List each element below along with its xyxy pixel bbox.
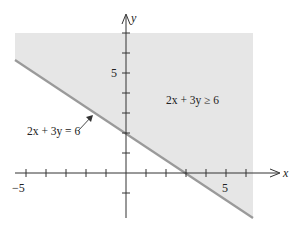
x-axis-label: x — [282, 166, 289, 180]
x-tick-label-5: 5 — [222, 181, 228, 195]
line-equation-label: 2x + 3y = 6 — [27, 125, 80, 138]
y-axis-label: y — [130, 11, 137, 25]
x-tick-label-neg5: −5 — [12, 181, 25, 195]
inequality-graph: x y −5 5 5 2x + 3y = 6 2x + 3y ≥ 6 — [0, 0, 301, 238]
y-tick-label-5: 5 — [111, 66, 117, 80]
region-inequality-label: 2x + 3y ≥ 6 — [166, 94, 219, 107]
